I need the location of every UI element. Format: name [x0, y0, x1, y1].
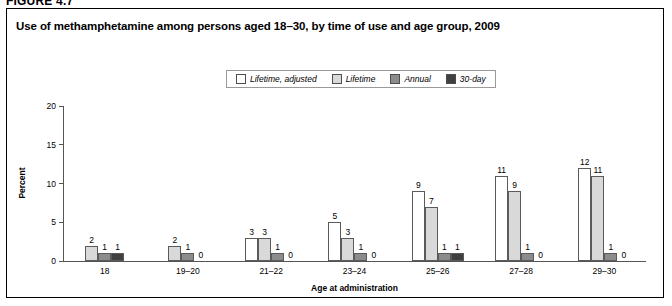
bar-slot: 1 [521, 106, 534, 261]
bar-group-25-26: 9711 [396, 106, 479, 261]
bar[interactable] [451, 253, 464, 261]
bar-slot: 1 [604, 106, 617, 261]
bar-slot: 1 [181, 106, 194, 261]
bar-slot: 9 [412, 106, 425, 261]
bar-slot: 12 [578, 106, 591, 261]
bar-groups: 21121033105310971111910121110 [63, 106, 646, 261]
bar[interactable] [412, 191, 425, 261]
bar-slot: 5 [328, 106, 341, 261]
bar[interactable] [168, 246, 181, 262]
bar-value-label: 5 [333, 211, 338, 221]
bar[interactable] [521, 253, 534, 261]
bar-value-label: 0 [621, 250, 626, 260]
bar-slot: 2 [168, 106, 181, 261]
bar[interactable] [85, 246, 98, 262]
legend-item-0: Lifetime, adjusted [236, 74, 317, 84]
bar-slot: 1 [111, 106, 124, 261]
bar-value-label: 1 [442, 242, 447, 252]
bar-slot: 1 [271, 106, 284, 261]
bar[interactable] [258, 238, 271, 261]
x-tick-label: 27–28 [479, 266, 562, 276]
legend-swatch-icon [332, 74, 342, 84]
bar-group-18: 211 [63, 106, 146, 261]
bar-value-label: 1 [455, 242, 460, 252]
bar-slot: 3 [258, 106, 271, 261]
figure-panel-root: FIGURE 4.7 Use of methamphetamine among … [0, 0, 672, 306]
y-tick-5: 5 [51, 217, 63, 227]
bar-group-29-30: 121110 [563, 106, 646, 261]
x-axis-title: Age at administration [63, 283, 646, 293]
bar-slot: 7 [425, 106, 438, 261]
legend-item-label: Annual [404, 74, 430, 84]
bar-value-label: 0 [199, 250, 204, 260]
bar[interactable] [591, 176, 604, 261]
bar[interactable] [495, 176, 508, 261]
bar-slot: 1 [438, 106, 451, 261]
bar[interactable] [111, 253, 124, 261]
bar-slot: 0 [534, 106, 547, 261]
bar-value-label: 1 [608, 242, 613, 252]
bar-value-label: 1 [102, 242, 107, 252]
legend-item-label: 30-day [460, 74, 486, 84]
x-tick-label: 23–24 [313, 266, 396, 276]
y-tick-label: 20 [47, 101, 56, 111]
legend-item-3: 30-day [446, 74, 486, 84]
bar-value-label: 2 [89, 235, 94, 245]
bar-value-label: 1 [525, 242, 530, 252]
bar[interactable] [604, 253, 617, 261]
bar-slot: 0 [617, 106, 630, 261]
bar[interactable] [578, 168, 591, 261]
bar[interactable] [438, 253, 451, 261]
bar-value-label: 9 [512, 180, 517, 190]
y-tick-label: 15 [47, 140, 56, 150]
bar-group-21-22: 3310 [230, 106, 313, 261]
bar[interactable] [425, 207, 438, 261]
bar-slot: 11 [591, 106, 604, 261]
y-axis-title: Percent [17, 167, 27, 198]
bar-value-label: 0 [372, 250, 377, 260]
bar[interactable] [245, 238, 258, 261]
y-tick-label: 0 [51, 256, 56, 266]
bar-slot: 2 [85, 106, 98, 261]
y-tick-label: 10 [47, 179, 56, 189]
bar-slot: 0 [194, 106, 207, 261]
bar-group-19-20: 210 [146, 106, 229, 261]
x-tick-label: 21–22 [230, 266, 313, 276]
bar-value-label: 0 [538, 250, 543, 260]
bar-slot: 0 [284, 106, 297, 261]
bar-value-label: 7 [429, 196, 434, 206]
bar[interactable] [328, 222, 341, 261]
legend-item-2: Annual [390, 74, 430, 84]
bar-value-label: 3 [262, 227, 267, 237]
bar-slot: 1 [98, 106, 111, 261]
y-tick-20: 20 [47, 101, 63, 111]
x-tick-label: 29–30 [563, 266, 646, 276]
bar-value-label: 9 [416, 180, 421, 190]
bar-value-label: 1 [359, 242, 364, 252]
chart-legend: Lifetime, adjustedLifetimeAnnual30-day [226, 70, 496, 88]
legend-item-1: Lifetime [332, 74, 376, 84]
legend-swatch-icon [446, 74, 456, 84]
x-axis-tick-labels: 1819–2021–2223–2425–2627–2829–30 [63, 266, 646, 276]
bar[interactable] [181, 253, 194, 261]
bar[interactable] [271, 253, 284, 261]
bar-slot: 11 [495, 106, 508, 261]
bar[interactable] [354, 253, 367, 261]
x-tick-label: 19–20 [146, 266, 229, 276]
legend-item-label: Lifetime [346, 74, 376, 84]
legend-swatch-icon [390, 74, 400, 84]
legend-swatch-icon [236, 74, 246, 84]
bar-value-label: 3 [346, 227, 351, 237]
bar[interactable] [341, 238, 354, 261]
bar-value-label: 11 [497, 165, 506, 175]
bar[interactable] [98, 253, 111, 261]
bar-value-label: 1 [186, 242, 191, 252]
bar[interactable] [508, 191, 521, 261]
bar-value-label: 12 [580, 157, 589, 167]
bar-slot: 9 [508, 106, 521, 261]
figure-number: FIGURE 4.7 [6, 0, 73, 8]
y-tick-0: 0 [51, 256, 63, 266]
bar-value-label: 2 [173, 235, 178, 245]
bar-slot: 3 [341, 106, 354, 261]
bar-value-label: 0 [288, 250, 293, 260]
